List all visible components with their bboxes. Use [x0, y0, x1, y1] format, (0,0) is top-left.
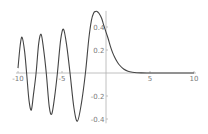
- airy-function-plot: -10-5510-0.4-0.20.20.4: [0, 0, 208, 134]
- x-tick-label: 5: [148, 75, 152, 83]
- x-tick-label: -5: [59, 75, 66, 83]
- y-tick-label: -0.2: [91, 93, 105, 101]
- axes: [16, 11, 196, 123]
- y-tick-label: 0.2: [93, 47, 104, 55]
- x-tick-label: 10: [190, 75, 199, 83]
- x-tick-label: -10: [12, 75, 23, 83]
- y-tick-label: -0.4: [91, 116, 105, 124]
